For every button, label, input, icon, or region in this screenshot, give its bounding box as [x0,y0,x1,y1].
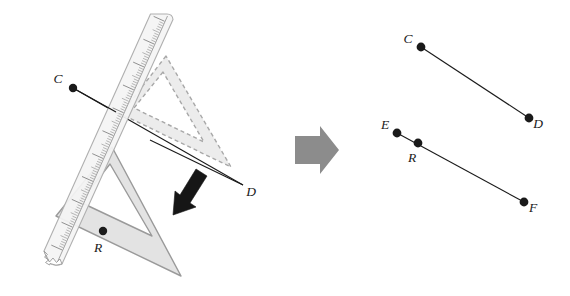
result-point-f-label: F [528,200,538,215]
segment-cd-result [421,47,529,118]
result-point-e-label: E [380,117,390,132]
result-panel: C D E R F [380,31,543,215]
point-c [69,84,77,92]
ruler-number: 2 [122,55,131,62]
slide-arrow [173,169,207,215]
point-r-label: R [93,240,103,255]
point-c-label: C [53,71,63,86]
slide-arrow-shape [173,169,207,215]
result-point-r [414,139,423,148]
construction-panel: 012345678910 C D R [39,10,256,276]
result-point-e [393,129,402,138]
result-point-c [417,43,426,52]
figure-svg: 012345678910 C D R [0,0,570,296]
result-point-c-label: C [403,31,413,46]
result-point-f [520,198,529,207]
figure-root: 012345678910 C D R [0,0,570,296]
result-arrow [295,126,339,174]
ruler-number: 1 [132,33,141,40]
ruler-number: 0 [143,10,152,17]
result-point-d [525,114,534,123]
result-point-r-label: R [407,150,417,165]
result-arrow-shape [295,126,339,174]
point-r [99,227,107,235]
point-d-label: D [245,184,256,199]
result-point-d-label: D [532,116,543,131]
segment-cd-lead [73,88,116,112]
